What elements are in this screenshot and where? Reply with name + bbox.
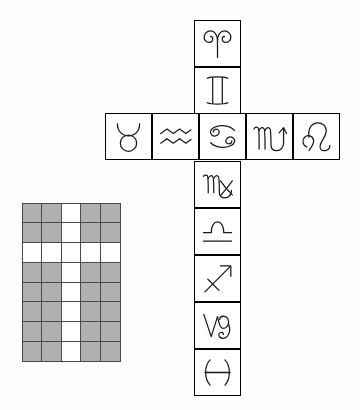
aries-glyph: [199, 25, 236, 62]
cross-cell-horizontal-leo: [293, 113, 340, 160]
cross-cell-vertical-sagittarius: [194, 255, 241, 302]
cross-cell-horizontal-cancer: [199, 113, 246, 160]
gemini-glyph: [199, 72, 236, 109]
libra-glyph: [199, 213, 236, 250]
taurus-glyph: [110, 118, 147, 155]
sagittarius-glyph: [199, 260, 236, 297]
cross-cell-horizontal-aquarius: [152, 113, 199, 160]
cross-cell-horizontal-taurus: [105, 113, 152, 160]
cross-cell-vertical-libra: [194, 208, 241, 255]
virgo-glyph: [199, 166, 236, 203]
cross-cell-vertical-pisces: [194, 349, 241, 396]
cross-cell-vertical-aries: [194, 20, 241, 67]
cross-cell-horizontal-scorpio: [246, 113, 293, 160]
figure-canvas: [0, 0, 360, 410]
cancer-glyph: [204, 118, 241, 155]
scorpio-glyph: [251, 118, 288, 155]
aquarius-glyph: [157, 118, 194, 155]
cross-cell-vertical-capricorn: [194, 302, 241, 349]
capricorn-glyph: [199, 307, 236, 344]
pisces-glyph: [199, 354, 236, 391]
leo-glyph: [298, 118, 335, 155]
cross-cell-vertical-virgo: [194, 161, 241, 208]
zodiac-cross: [0, 0, 360, 410]
cross-cell-vertical-gemini: [194, 67, 241, 114]
